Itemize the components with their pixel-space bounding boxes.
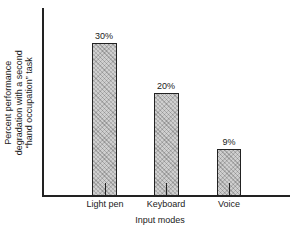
bar-light-pen bbox=[92, 43, 117, 195]
category-label-keyboard: Keyboard bbox=[136, 199, 196, 209]
y-axis-label-line-3: “hand occupation” task bbox=[24, 28, 35, 178]
category-label-light-pen: Light pen bbox=[75, 199, 135, 209]
bar-tick-light-pen bbox=[105, 183, 106, 195]
bar-keyboard bbox=[154, 93, 179, 195]
x-axis-line bbox=[42, 195, 290, 197]
bar-tick-keyboard bbox=[166, 183, 167, 195]
category-label-voice: Voice bbox=[199, 199, 259, 209]
bar-tick-voice bbox=[229, 183, 230, 195]
bar-chart: Percent performance degradation with a s… bbox=[0, 0, 299, 231]
y-axis-line bbox=[42, 8, 44, 196]
bar-value-label-keyboard: 20% bbox=[146, 81, 186, 91]
y-axis-label-line-1: Percent performance bbox=[3, 28, 14, 178]
y-axis-label: Percent performance degradation with a s… bbox=[3, 28, 35, 178]
bar-value-label-light-pen: 30% bbox=[84, 31, 124, 41]
y-axis-label-line-2: degradation with a second bbox=[14, 28, 25, 178]
bar-value-label-voice: 9% bbox=[209, 137, 249, 147]
x-axis-label: Input modes bbox=[120, 215, 200, 225]
